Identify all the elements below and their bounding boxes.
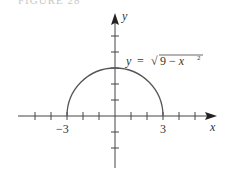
x-tick-label-3: 3 xyxy=(160,122,166,136)
svg-text:=: = xyxy=(137,54,144,68)
svg-text:√: √ xyxy=(151,54,158,68)
semicircle-graph: y x −3 3 y = √ 9 − x 2 xyxy=(0,0,233,185)
svg-text:9 − x: 9 − x xyxy=(160,54,185,68)
equation-label: y = √ 9 − x 2 xyxy=(125,54,203,68)
svg-text:2: 2 xyxy=(197,54,201,62)
y-axis-label: y xyxy=(121,9,128,23)
x-tick-label-neg3: −3 xyxy=(56,122,69,136)
x-axis-label: x xyxy=(209,120,216,134)
svg-text:y: y xyxy=(125,54,132,68)
